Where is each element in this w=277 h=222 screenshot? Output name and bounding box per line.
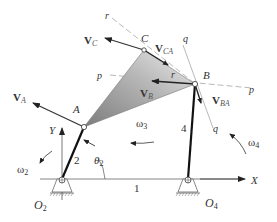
point-label-A: A: [72, 103, 80, 115]
angular-velocity-label-omega2: ω2: [17, 163, 28, 177]
angular-velocity-label-omega4: ω4: [248, 136, 259, 150]
angle-label-theta2: θ2: [94, 154, 103, 168]
rocker-link-4: [188, 84, 195, 179]
angular-velocity-label-omega3: ω3: [136, 117, 147, 131]
axis-label-Y: Y: [49, 124, 57, 136]
velocity-vector-VC: [105, 38, 144, 50]
ground-pivot-O4: [176, 177, 200, 196]
fourbar-diagram: C B A r r q q p p VC VCA VB VBA VA Y X 2…: [0, 0, 277, 222]
velocity-label-VA: VA: [13, 91, 26, 105]
construction-label-p-right: p: [248, 84, 254, 95]
link-number-4: 4: [181, 122, 187, 134]
pin-A: [81, 124, 86, 129]
omega3-arrow: [131, 142, 154, 143]
pivot-label-O2: O2: [34, 198, 47, 213]
construction-label-q-bottom: q: [213, 123, 218, 134]
omega2-arrow: [40, 151, 52, 163]
point-label-B: B: [203, 69, 210, 81]
point-label-C: C: [141, 32, 149, 44]
construction-label-r-mid: r: [171, 69, 175, 80]
axis-label-X: X: [250, 174, 259, 186]
construction-label-q-top: q: [183, 33, 188, 44]
link-number-1: 1: [134, 182, 140, 194]
link-number-2: 2: [74, 154, 80, 166]
ground-pivot-O2: [50, 177, 74, 196]
velocity-label-VCA: VCA: [155, 42, 173, 56]
omega4-arrow: [230, 134, 246, 154]
velocity-label-VBA: VBA: [212, 94, 230, 108]
velocity-label-VC: VC: [84, 34, 98, 48]
pivot-label-O4: O4: [205, 196, 218, 211]
pin-B: [192, 81, 197, 86]
construction-label-p-left: p: [96, 70, 102, 81]
pin-C: [142, 48, 146, 52]
crank-link-2: [62, 127, 84, 179]
construction-label-r-top: r: [105, 10, 109, 21]
theta2-pointer-arrow: [84, 140, 95, 146]
